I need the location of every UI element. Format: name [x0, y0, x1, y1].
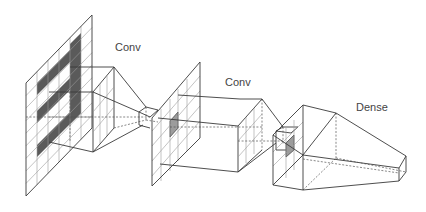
- cnn-diagram: Conv: [0, 0, 426, 212]
- input-grid: [26, 26, 92, 184]
- conv2-block: [158, 95, 283, 172]
- conv1-label: Conv: [115, 41, 141, 53]
- dense-label: Dense: [356, 101, 388, 113]
- feature-map-1-highlight: [170, 112, 178, 137]
- conv2-label: Conv: [225, 76, 251, 88]
- input-plane: [26, 15, 92, 196]
- conv1-output-prism: [139, 107, 158, 128]
